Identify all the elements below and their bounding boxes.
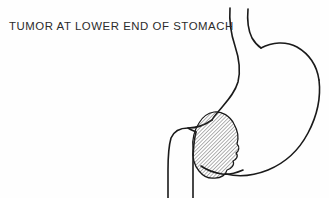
fundus-arc (261, 43, 319, 80)
greater-curvature (226, 80, 320, 176)
tumor-mass (186, 105, 246, 187)
figure-caption: TUMOR AT LOWER END OF STOMACH (9, 21, 234, 32)
tumor-hatch-fill (186, 105, 246, 187)
esophagus-right-wall (248, 9, 261, 48)
illustration-figure: TUMOR AT LOWER END OF STOMACH (0, 0, 329, 198)
